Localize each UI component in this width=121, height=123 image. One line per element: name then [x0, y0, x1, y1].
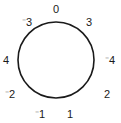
label-bottom-right-value: 1 [67, 108, 73, 120]
label-upper-right: 3 [86, 17, 92, 28]
label-left-value: 4 [3, 54, 9, 66]
circle-outline [18, 22, 94, 98]
label-upper-left-value: 3 [26, 16, 32, 28]
label-right-value: 4 [109, 54, 115, 66]
label-lower-right-value: 2 [104, 88, 110, 100]
label-upper-left: ⁻3 [22, 16, 32, 29]
label-lower-right: 2 [104, 89, 110, 100]
label-top-value: 0 [53, 3, 59, 15]
label-bottom-right: 1 [67, 109, 73, 120]
label-upper-right-value: 3 [86, 16, 92, 28]
label-left: 4 [3, 55, 9, 66]
circle-graphic [0, 0, 121, 123]
number-circle-figure: 0 3 ⁻4 2 1 ⁻1 ⁻2 4 ⁻3 [0, 0, 121, 123]
label-bottom-left-value: 1 [39, 108, 45, 120]
label-bottom-left: ⁻1 [35, 108, 45, 121]
label-lower-left: ⁻2 [5, 88, 15, 101]
label-top: 0 [53, 4, 59, 15]
label-right: ⁻4 [105, 54, 115, 67]
label-lower-left-value: 2 [9, 88, 15, 100]
